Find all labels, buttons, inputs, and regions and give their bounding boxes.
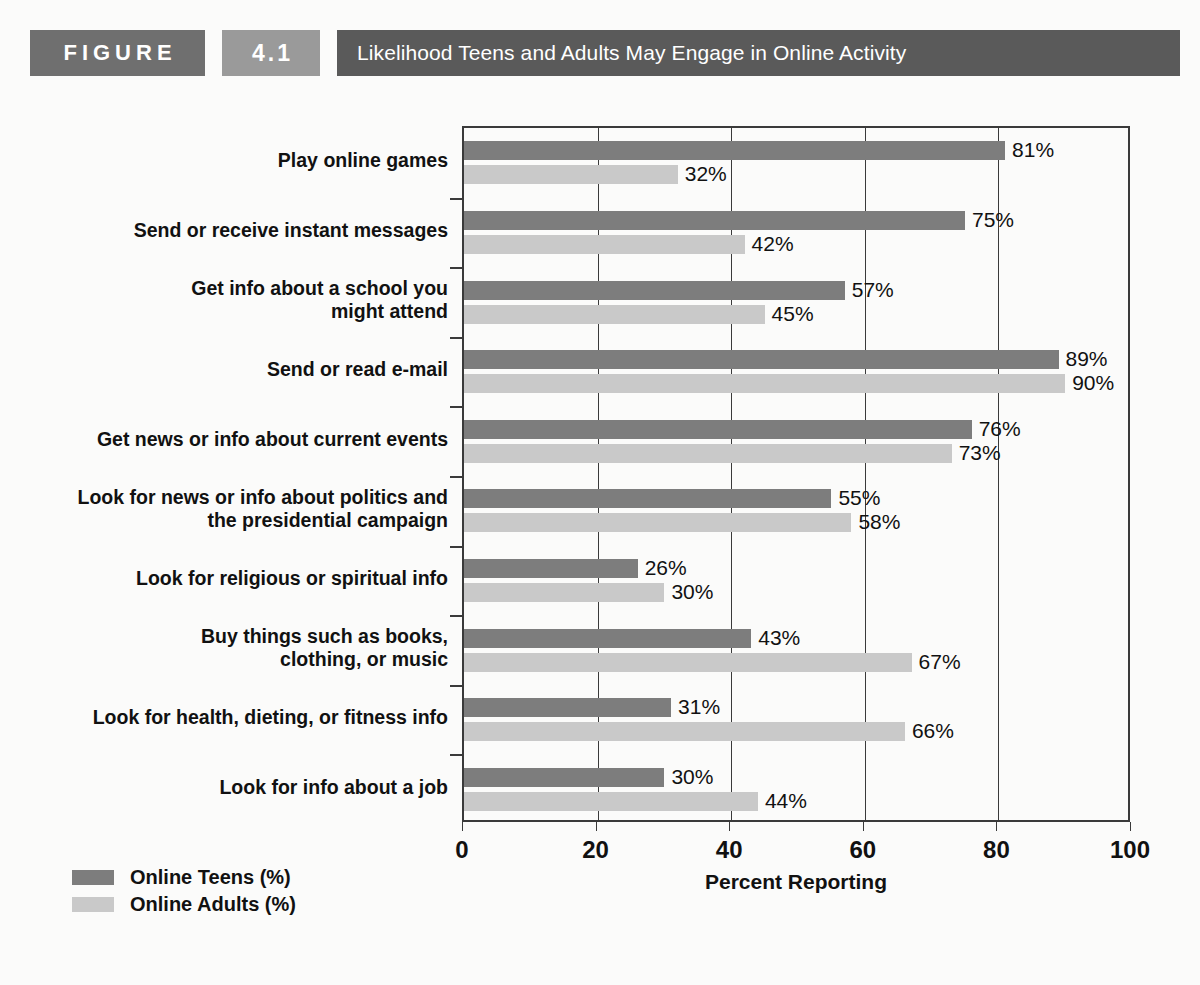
x-axis-tick-60 [863, 822, 864, 831]
x-axis-tick-40 [729, 822, 730, 831]
category-label-line: Buy things such as books, [8, 625, 448, 648]
bar-value-label: 55% [838, 488, 880, 507]
bar-teens [464, 281, 845, 300]
category-label-line: Look for news or info about politics and [8, 486, 448, 509]
bar-teens [464, 420, 972, 439]
category-label-line: Look for health, dieting, or fitness inf… [8, 706, 448, 729]
bar-row: 26%30% [464, 559, 1128, 602]
figure-header-band: FIGURE 4.1 Likelihood Teens and Adults M… [30, 30, 1180, 76]
bar-value-label: 66% [912, 721, 954, 740]
x-axis-tick-label: 60 [849, 836, 876, 864]
legend-swatch-teens [72, 870, 114, 885]
y-axis-tick [450, 546, 464, 548]
bar-row: 30%44% [464, 768, 1128, 811]
bar-row: 81%32% [464, 141, 1128, 184]
y-axis-tick [450, 476, 464, 478]
bar-adults [464, 583, 664, 602]
bar-value-label: 26% [645, 558, 687, 577]
bar-value-label: 30% [671, 767, 713, 786]
category-label-text: Buy things such as books,clothing, or mu… [8, 625, 448, 671]
bar-value-label: 43% [758, 628, 800, 647]
bar-adults [464, 374, 1065, 393]
bar-value-label: 44% [765, 791, 807, 810]
bar-adults [464, 513, 851, 532]
bar-teens [464, 559, 638, 578]
bar-teens [464, 489, 831, 508]
category-label-text: Look for health, dieting, or fitness inf… [8, 706, 448, 729]
category-label-line: Get info about a school you [8, 277, 448, 300]
bar-teens [464, 768, 664, 787]
category-label-text: Look for info about a job [8, 776, 448, 799]
category-label-line: Send or read e-mail [8, 358, 448, 381]
y-axis-tick [450, 615, 464, 617]
bar-value-label: 58% [858, 512, 900, 531]
x-axis-tick-20 [596, 822, 597, 831]
legend-item: Online Adults (%) [72, 893, 296, 916]
header-gap-2 [320, 30, 337, 76]
x-axis-tick-80 [996, 822, 997, 831]
plot-area: 81%32%75%42%57%45%89%90%76%73%55%58%26%3… [462, 126, 1130, 822]
bar-adults [464, 444, 952, 463]
bar-value-label: 31% [678, 697, 720, 716]
bar-teens [464, 629, 751, 648]
category-label-line: might attend [8, 300, 448, 323]
x-axis-tick-100 [1130, 822, 1131, 831]
bar-row: 89%90% [464, 350, 1128, 393]
x-axis-tick-label: 0 [455, 836, 468, 864]
bar-value-label: 57% [852, 280, 894, 299]
bar-value-label: 32% [685, 164, 727, 183]
y-axis-tick [450, 685, 464, 687]
category-label-line: clothing, or music [8, 648, 448, 671]
bar-adults [464, 165, 678, 184]
bar-row: 31%66% [464, 698, 1128, 741]
y-axis-tick [450, 198, 464, 200]
bar-value-label: 76% [979, 419, 1021, 438]
bar-value-label: 81% [1012, 140, 1054, 159]
bar-row: 76%73% [464, 420, 1128, 463]
bar-value-label: 30% [671, 582, 713, 601]
bar-value-label: 45% [772, 304, 814, 323]
bar-row: 75%42% [464, 211, 1128, 254]
bar-teens [464, 211, 965, 230]
figure-number-box: 4.1 [222, 30, 320, 76]
category-label-text: Send or read e-mail [8, 358, 448, 381]
category-label-text: Get info about a school youmight attend [8, 277, 448, 323]
bar-adults [464, 305, 765, 324]
category-label-text: Look for religious or spiritual info [8, 567, 448, 590]
header-gap [205, 30, 222, 76]
bar-teens [464, 350, 1059, 369]
bar-teens [464, 141, 1005, 160]
legend-label: Online Teens (%) [130, 866, 291, 889]
category-label-line: Play online games [8, 149, 448, 172]
bar-row: 57%45% [464, 281, 1128, 324]
legend-item: Online Teens (%) [72, 866, 296, 889]
y-axis-tick [450, 337, 464, 339]
category-label-text: Send or receive instant messages [8, 219, 448, 242]
bar-adults [464, 792, 758, 811]
y-axis-tick [450, 406, 464, 408]
bar-adults [464, 653, 912, 672]
bar-adults [464, 235, 745, 254]
bar-row: 55%58% [464, 489, 1128, 532]
category-label-line: Look for religious or spiritual info [8, 567, 448, 590]
bar-row: 43%67% [464, 629, 1128, 672]
x-axis-tick-label: 40 [716, 836, 743, 864]
legend-swatch-adults [72, 897, 114, 912]
figure-word-box: FIGURE [30, 30, 205, 76]
category-label-line: Send or receive instant messages [8, 219, 448, 242]
bar-teens [464, 698, 671, 717]
bar-adults [464, 722, 905, 741]
chart-legend: Online Teens (%)Online Adults (%) [72, 866, 296, 920]
x-axis-tick-label: 80 [983, 836, 1010, 864]
bar-value-label: 73% [959, 443, 1001, 462]
category-label-line: Look for info about a job [8, 776, 448, 799]
x-axis-tick-label: 100 [1110, 836, 1150, 864]
bar-value-label: 90% [1072, 373, 1114, 392]
x-axis-tick-label: 20 [582, 836, 609, 864]
bar-value-label: 42% [752, 234, 794, 253]
legend-label: Online Adults (%) [130, 893, 296, 916]
figure-title: Likelihood Teens and Adults May Engage i… [337, 30, 1180, 76]
y-axis-tick [450, 267, 464, 269]
category-label-text: Get news or info about current events [8, 428, 448, 451]
category-label-text: Look for news or info about politics and… [8, 486, 448, 532]
